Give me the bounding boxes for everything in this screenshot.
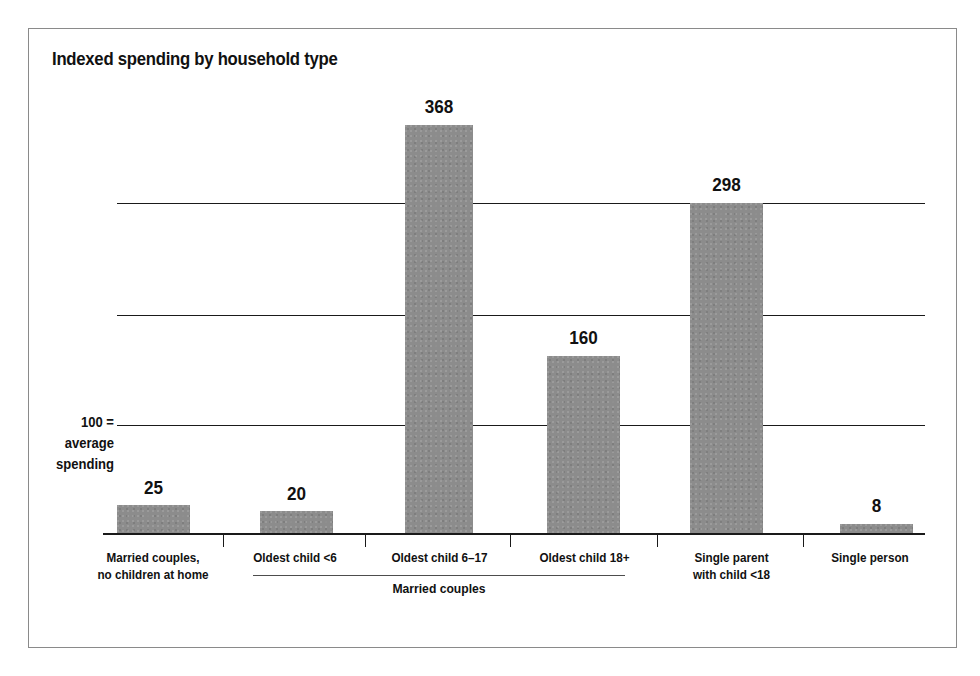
gridline-300 bbox=[117, 203, 925, 204]
bar-single-person bbox=[840, 524, 913, 533]
bar-single-parent-child-under-18 bbox=[690, 203, 763, 533]
x-axis-baseline bbox=[103, 533, 925, 535]
category-label-oldest-child-6-17: Oldest child 6–17 bbox=[374, 549, 505, 566]
bar-value-oldest-child-6-17: 368 bbox=[407, 96, 472, 118]
category-label-single-person: Single person bbox=[812, 549, 929, 566]
bar-value-single-parent: 298 bbox=[694, 174, 760, 196]
category-label-line-1: Oldest child <6 bbox=[232, 549, 358, 566]
category-label-oldest-child-under-6: Oldest child <6 bbox=[232, 549, 358, 566]
plot-area: 100 = average spending 25 20 368 160 298… bbox=[0, 0, 980, 676]
bar-value-married-no-children: 25 bbox=[121, 477, 187, 499]
category-label-line-2: no children at home bbox=[86, 566, 221, 583]
category-label-line-1: Oldest child 18+ bbox=[519, 549, 650, 566]
category-label-married-no-children: Married couples, no children at home bbox=[86, 549, 221, 583]
category-label-line-1: Oldest child 6–17 bbox=[374, 549, 505, 566]
category-label-oldest-child-18-plus: Oldest child 18+ bbox=[519, 549, 650, 566]
y-axis-note-line-1: 100 = bbox=[44, 412, 114, 433]
gridline-200 bbox=[117, 315, 925, 316]
category-label-line-2: with child <18 bbox=[666, 566, 797, 583]
y-axis-note: 100 = average spending bbox=[44, 412, 114, 475]
gridline-100 bbox=[117, 425, 925, 426]
bar-value-oldest-child-18-plus: 160 bbox=[551, 327, 617, 349]
axis-tick-1 bbox=[223, 534, 224, 547]
y-axis-note-line-2: average bbox=[44, 433, 114, 454]
category-label-single-parent: Single parent with child <18 bbox=[666, 549, 797, 583]
axis-tick-2 bbox=[365, 534, 366, 547]
axis-tick-3 bbox=[510, 534, 511, 547]
axis-tick-4 bbox=[657, 534, 658, 547]
group-label-married-couples: Married couples bbox=[272, 581, 607, 596]
group-bracket-married-couples bbox=[253, 575, 625, 576]
bar-value-oldest-child-under-6: 20 bbox=[264, 483, 330, 505]
chart-figure: Indexed spending by household type 100 =… bbox=[0, 0, 980, 676]
bar-oldest-child-6-17 bbox=[405, 125, 473, 533]
bar-value-single-person: 8 bbox=[844, 495, 910, 517]
y-axis-note-line-3: spending bbox=[44, 454, 114, 475]
bar-married-no-children bbox=[117, 505, 190, 533]
bar-oldest-child-18-plus bbox=[547, 356, 620, 533]
category-label-line-1: Single parent bbox=[666, 549, 797, 566]
axis-tick-5 bbox=[803, 534, 804, 547]
category-label-line-1: Single person bbox=[812, 549, 929, 566]
bar-oldest-child-under-6 bbox=[260, 511, 333, 533]
category-label-line-1: Married couples, bbox=[86, 549, 221, 566]
